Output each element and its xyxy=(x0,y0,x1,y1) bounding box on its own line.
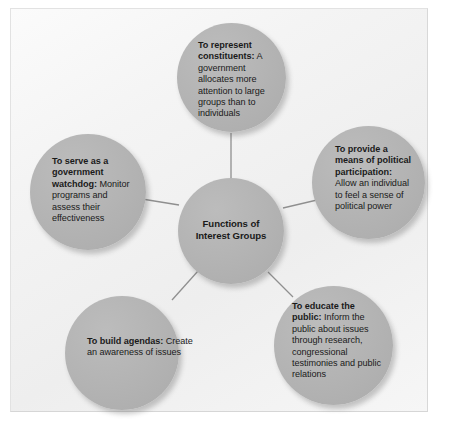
node-government-watchdog[interactable]: To serve as a government watchdog: Monit… xyxy=(30,134,146,250)
node-center-line1: Functions of xyxy=(203,218,260,229)
node-watchdog-text: To serve as a government watchdog: Monit… xyxy=(52,156,132,224)
node-participation-text: To provide a means of political particip… xyxy=(335,144,414,212)
node-participation-lead: To provide a means of political particip… xyxy=(335,144,411,177)
node-participation-body: Allow an individual to feel a sense of p… xyxy=(335,178,409,211)
node-educate-text: To educate the public: Inform the public… xyxy=(292,301,381,381)
node-center-text: Functions of Interest Groups xyxy=(186,218,276,242)
diagram-root: Functions of Interest Groups To represen… xyxy=(0,0,449,430)
node-educate-the-public[interactable]: To educate the public: Inform the public… xyxy=(274,286,393,405)
node-center-functions-of-interest-groups[interactable]: Functions of Interest Groups xyxy=(178,178,284,284)
node-represent-body: A government allocates more attention to… xyxy=(198,51,265,118)
node-agendas-lead: To build agendas: xyxy=(87,336,163,346)
node-center-line2: Interest Groups xyxy=(196,230,267,241)
node-represent-text: To represent constituents: A government … xyxy=(198,40,274,120)
node-represent-constituents[interactable]: To represent constituents: A government … xyxy=(177,23,286,132)
node-represent-lead: To represent constituents: xyxy=(198,40,254,61)
node-build-agendas[interactable]: To build agendas: Create an awareness of… xyxy=(65,296,179,410)
node-agendas-text: To build agendas: Create an awareness of… xyxy=(87,336,205,359)
node-political-participation[interactable]: To provide a means of political particip… xyxy=(312,126,425,239)
node-educate-body: Inform the public about issues through r… xyxy=(292,312,381,379)
